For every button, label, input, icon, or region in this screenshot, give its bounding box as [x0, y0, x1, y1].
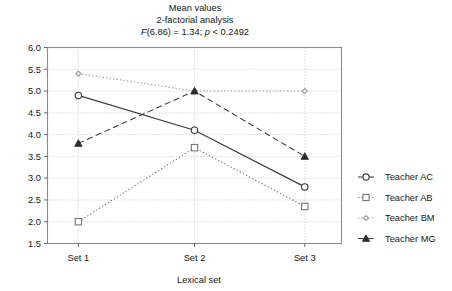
chart-title: Mean values [0, 2, 390, 14]
data-point-marker [302, 203, 308, 209]
chart-subtitle: 2-factorial analysis [0, 14, 390, 26]
p-value-value: < 0.2492 [210, 27, 249, 37]
data-point-marker [363, 194, 369, 200]
x-tick-label: Set 2 [184, 253, 206, 263]
chart-stat-line: F(6.86) = 1.34; p < 0.2492 [0, 26, 390, 38]
legend-item[interactable]: Teacher AC [358, 172, 433, 182]
legend-item-label: Teacher AB [385, 193, 433, 203]
data-series [75, 92, 308, 190]
y-tick-label: 1.5 [28, 239, 41, 249]
data-series [76, 71, 308, 94]
f-statistic-value: (6.86) = 1.34; [147, 27, 205, 37]
chart-title-block: Mean values 2-factorial analysis F(6.86)… [0, 2, 390, 39]
data-point-marker [301, 153, 308, 160]
x-axis-ticks: Set 1Set 2Set 3 [68, 244, 316, 263]
y-tick-label: 5.0 [28, 86, 41, 96]
data-point-marker [363, 174, 369, 180]
x-tick-label: Set 3 [294, 253, 316, 263]
x-axis-title: Lexical set [177, 275, 221, 285]
y-tick-label: 2.0 [28, 217, 41, 227]
series-line [78, 148, 304, 222]
x-tick-label: Set 1 [68, 253, 90, 263]
series-line [78, 95, 304, 186]
data-point-marker [75, 92, 81, 98]
y-tick-label: 3.5 [28, 152, 41, 162]
y-tick-label: 2.5 [28, 195, 41, 205]
data-point-marker [302, 88, 307, 93]
data-point-marker [76, 71, 81, 76]
data-point-marker [75, 219, 81, 225]
data-point-marker [75, 140, 82, 147]
data-point-marker [302, 184, 308, 190]
legend-item[interactable]: Teacher AB [358, 193, 433, 203]
legend-item[interactable]: Teacher MG [358, 234, 436, 244]
y-tick-label: 4.5 [28, 108, 41, 118]
legend-item-label: Teacher AC [385, 172, 433, 182]
data-point-marker [191, 127, 197, 133]
series-line [78, 74, 304, 91]
chart-figure: Mean values 2-factorial analysis F(6.86)… [0, 0, 452, 291]
legend-item-label: Teacher MG [385, 234, 436, 244]
y-tick-label: 3.0 [28, 173, 41, 183]
y-tick-label: 6.0 [28, 43, 41, 53]
legend-group: Teacher ACTeacher ABTeacher BMTeacher MG [358, 172, 436, 244]
data-point-marker [364, 216, 369, 221]
y-tick-label: 4.0 [28, 130, 41, 140]
plot-svg: 6.05.55.04.54.03.53.02.52.01.5 Set 1Set … [0, 0, 452, 291]
data-series-group [75, 71, 309, 225]
legend-item[interactable]: Teacher BM [358, 213, 435, 223]
legend-item-label: Teacher BM [385, 213, 435, 223]
y-axis-ticks: 6.05.55.04.54.03.53.02.52.01.5 [28, 43, 47, 249]
data-point-marker [191, 144, 197, 150]
y-tick-label: 5.5 [28, 65, 41, 75]
